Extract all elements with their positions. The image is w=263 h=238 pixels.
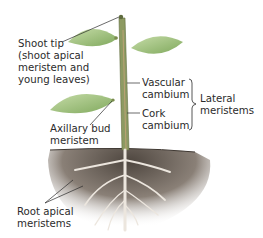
leaf-upper-right — [131, 36, 183, 54]
root-apical-label: Root apical meristems — [17, 206, 74, 230]
cork-cambium-label: Cork cambium — [142, 108, 189, 132]
leaf-lower-left — [50, 94, 115, 113]
lateral-meristems-label: Lateral meristems — [200, 93, 254, 117]
axillary-bud-label: Axillary bud meristem — [50, 123, 111, 147]
shoot-tip-label: Shoot tip (shoot apical meristem and you… — [18, 38, 90, 86]
stem — [111, 15, 129, 150]
vascular-cambium-label: Vascular cambium — [142, 77, 189, 101]
lateral-meristem-bracket — [189, 79, 196, 130]
plant-illustration — [0, 0, 263, 238]
